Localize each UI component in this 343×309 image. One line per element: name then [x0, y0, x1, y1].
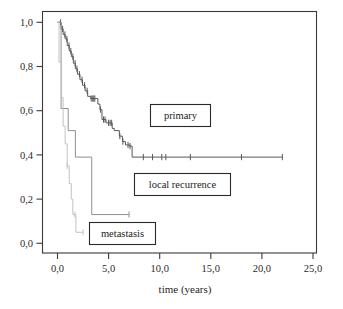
y-tick-label-5: 0,2: [20, 194, 33, 205]
x-tick-label-1: 0,0: [51, 263, 64, 274]
primary-label-text: primary: [164, 110, 198, 121]
metastasis-label-text: metastasis: [101, 228, 144, 239]
x-tick-label-6: 25,0: [304, 263, 322, 274]
x-tick-label-5: 20,0: [253, 263, 271, 274]
y-tick-label-1: 1,0: [20, 17, 33, 28]
kaplan-meier-plot: 1,0 0,8 0,6 0,4 0,2 0,0 0,0 5,0 10,0 15,…: [0, 0, 343, 309]
local-recurrence-label-text: local recurrence: [149, 179, 217, 190]
y-tick-label-6: 0,0: [20, 238, 33, 249]
x-tick-label-3: 10,0: [151, 263, 169, 274]
survival-chart-figure: 1,0 0,8 0,6 0,4 0,2 0,0 0,0 5,0 10,0 15,…: [0, 0, 343, 309]
x-tick-label-4: 15,0: [202, 263, 220, 274]
legend-box-metastasis: metastasis: [90, 223, 156, 245]
legend-box-primary: primary: [151, 105, 211, 127]
x-axis-title: time (years): [159, 283, 212, 296]
x-tick-label-2: 5,0: [102, 263, 115, 274]
y-tick-label-3: 0,6: [20, 105, 33, 116]
y-tick-label-4: 0,4: [20, 150, 34, 161]
legend-box-local-recurrence: local recurrence: [135, 174, 231, 196]
y-tick-label-2: 0,8: [20, 61, 33, 72]
